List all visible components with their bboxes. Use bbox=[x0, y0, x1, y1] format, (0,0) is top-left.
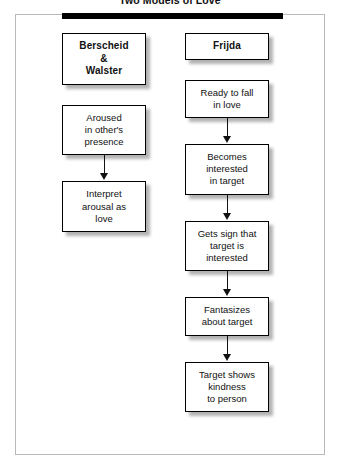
flow-node-fantasizes-about-target: Fantasizes about target bbox=[185, 297, 269, 335]
arrow-down-icon bbox=[185, 118, 269, 144]
flow-node-label: Target shows kindness to person bbox=[189, 369, 265, 406]
header-rule bbox=[62, 13, 283, 19]
arrow-head bbox=[223, 289, 231, 296]
flow-node-becomes-interested-in-target: Becomes interested in target bbox=[185, 144, 269, 195]
flow-node-aroused-in-others-presence: Aroused in other's presence bbox=[62, 105, 146, 156]
flow-node-label: Becomes interested in target bbox=[189, 151, 265, 188]
arrow-head bbox=[223, 213, 231, 220]
arrow-head bbox=[223, 136, 231, 143]
column-frijda: Frijda Ready to fall in love Becomes int… bbox=[185, 33, 269, 412]
flow-node-ready-to-fall-in-love: Ready to fall in love bbox=[185, 80, 269, 118]
arrow-stem bbox=[227, 336, 228, 356]
flow-node-label: Interpret arousal as love bbox=[66, 188, 142, 225]
header-gap bbox=[185, 60, 269, 80]
column-header-frijda: Frijda bbox=[185, 33, 269, 60]
arrow-stem bbox=[227, 271, 228, 291]
arrow-stem bbox=[227, 118, 228, 138]
arrow-down-icon bbox=[185, 195, 269, 221]
arrow-down-icon bbox=[62, 155, 146, 181]
flow-node-label: Gets sign that target is interested bbox=[189, 228, 265, 265]
arrow-head bbox=[100, 173, 108, 180]
arrow-down-icon bbox=[185, 271, 269, 297]
header-gap bbox=[62, 85, 146, 105]
flow-node-interpret-arousal-as-love: Interpret arousal as love bbox=[62, 181, 146, 232]
arrow-head bbox=[223, 354, 231, 361]
column-berscheid-walster: Berscheid & Walster Aroused in other's p… bbox=[62, 33, 146, 232]
arrow-stem bbox=[104, 155, 105, 175]
column-header-label: Frijda bbox=[189, 40, 265, 53]
flow-node-gets-sign-that-target-is-interested: Gets sign that target is interested bbox=[185, 221, 269, 272]
flow-node-label: Aroused in other's presence bbox=[66, 112, 142, 149]
flow-node-target-shows-kindness-to-person: Target shows kindness to person bbox=[185, 362, 269, 413]
flow-node-label: Fantasizes about target bbox=[189, 304, 265, 328]
flow-node-label: Ready to fall in love bbox=[189, 87, 265, 111]
column-header-label: Berscheid & Walster bbox=[66, 40, 142, 78]
arrow-stem bbox=[227, 195, 228, 215]
figure-title: Two Models of Love bbox=[0, 0, 340, 6]
column-header-berscheid-walster: Berscheid & Walster bbox=[62, 33, 146, 85]
arrow-down-icon bbox=[185, 336, 269, 362]
